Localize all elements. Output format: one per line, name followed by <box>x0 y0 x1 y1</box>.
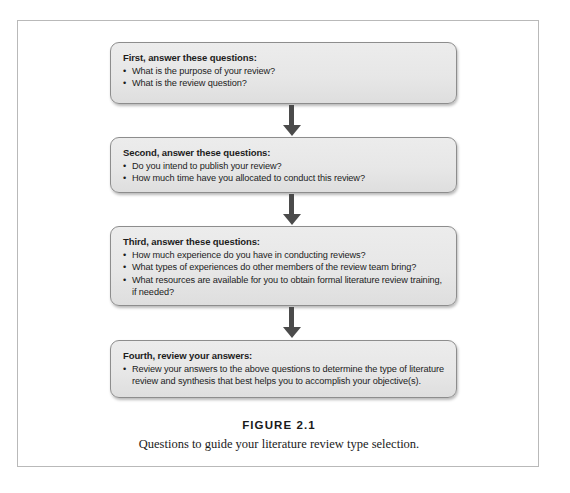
flow-step-1-heading: First, answer these questions: <box>123 51 444 64</box>
arrow-shaft <box>289 307 294 328</box>
list-item: What types of experiences do other membe… <box>123 261 444 273</box>
flow-step-3-heading: Third, answer these questions: <box>123 235 444 248</box>
flow-step-4-heading: Fourth, review your answers: <box>123 349 444 362</box>
list-item: What resources are available for you to … <box>123 274 444 299</box>
flow-step-4-bullets: Review your answers to the above questio… <box>123 363 444 388</box>
figure-caption-block: FIGURE 2.1 Questions to guide your liter… <box>18 419 540 452</box>
flow-step-1-bullets: What is the purpose of your review? What… <box>123 65 444 90</box>
flowchart: First, answer these questions: What is t… <box>18 21 540 468</box>
figure-page-frame: First, answer these questions: What is t… <box>17 20 539 467</box>
figure-caption-text: Questions to guide your literature revie… <box>18 437 540 452</box>
arrow-head-icon <box>283 125 301 136</box>
list-item: What is the review question? <box>123 77 444 89</box>
figure-number-label: FIGURE 2.1 <box>18 419 540 431</box>
flow-step-3-bullets: How much experience do you have in condu… <box>123 249 444 299</box>
list-item: How much experience do you have in condu… <box>123 249 444 261</box>
arrow-step2-to-step3 <box>283 194 301 225</box>
flow-step-2: Second, answer these questions: Do you i… <box>110 137 457 193</box>
flow-step-4: Fourth, review your answers: Review your… <box>110 340 457 398</box>
flow-step-3: Third, answer these questions: How much … <box>110 226 457 306</box>
list-item: Review your answers to the above questio… <box>123 363 444 388</box>
arrow-head-icon <box>283 327 301 338</box>
flow-step-1: First, answer these questions: What is t… <box>110 42 457 104</box>
arrow-head-icon <box>283 214 301 225</box>
arrow-shaft <box>289 105 294 126</box>
flow-step-2-bullets: Do you intend to publish your review? Ho… <box>123 160 444 185</box>
arrow-shaft <box>289 194 294 215</box>
arrow-step3-to-step4 <box>283 307 301 338</box>
arrow-step1-to-step2 <box>283 105 301 136</box>
list-item: What is the purpose of your review? <box>123 65 444 77</box>
list-item: How much time have you allocated to cond… <box>123 172 444 184</box>
flow-step-2-heading: Second, answer these questions: <box>123 146 444 159</box>
list-item: Do you intend to publish your review? <box>123 160 444 172</box>
